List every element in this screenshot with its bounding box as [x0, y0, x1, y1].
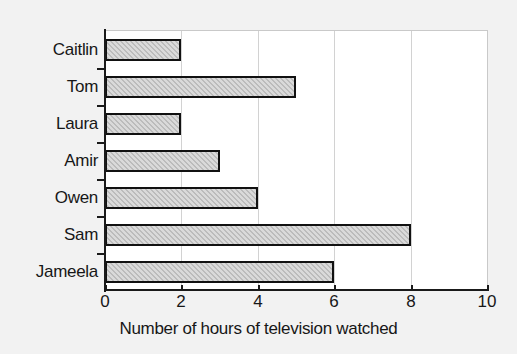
category-label-laura: Laura — [0, 115, 98, 132]
x-tick-label-8: 8 — [391, 293, 431, 310]
plot-border-top — [105, 30, 488, 31]
bar-laura — [105, 113, 181, 135]
x-tick-label-2: 2 — [161, 293, 201, 310]
x-tick-6 — [334, 285, 336, 291]
x-axis-line — [104, 289, 488, 291]
bar-sam — [105, 224, 411, 246]
bar-tom — [105, 76, 296, 98]
y-tick-1 — [97, 68, 105, 70]
bar-owen — [105, 187, 258, 209]
x-tick-label-10: 10 — [467, 293, 507, 310]
y-tick-3 — [97, 142, 105, 144]
y-tick-5 — [97, 216, 105, 218]
x-tick-label-4: 4 — [238, 293, 278, 310]
y-tick-4 — [97, 179, 105, 181]
x-tick-8 — [411, 285, 413, 291]
x-tick-0 — [105, 285, 107, 291]
gridline-6 — [334, 31, 335, 290]
bar-caitlin — [105, 39, 181, 61]
category-label-tom: Tom — [0, 78, 98, 95]
y-tick-2 — [97, 105, 105, 107]
x-tick-10 — [487, 285, 489, 291]
bar-amir — [105, 150, 220, 172]
x-axis-title: Number of hours of television watched — [0, 320, 517, 337]
bar-chart: CaitlinTomLauraAmirOwenSamJameela 024681… — [0, 0, 517, 354]
y-tick-6 — [97, 253, 105, 255]
plot-border-right — [487, 30, 488, 291]
bar-jameela — [105, 261, 334, 283]
category-label-jameela: Jameela — [0, 263, 98, 280]
category-label-caitlin: Caitlin — [0, 41, 98, 58]
x-tick-4 — [258, 285, 260, 291]
category-label-owen: Owen — [0, 189, 98, 206]
category-label-sam: Sam — [0, 226, 98, 243]
x-tick-label-6: 6 — [314, 293, 354, 310]
category-label-amir: Amir — [0, 152, 98, 169]
gridline-8 — [411, 31, 412, 290]
x-tick-label-0: 0 — [85, 293, 125, 310]
gridline-4 — [258, 31, 259, 290]
x-tick-2 — [181, 285, 183, 291]
